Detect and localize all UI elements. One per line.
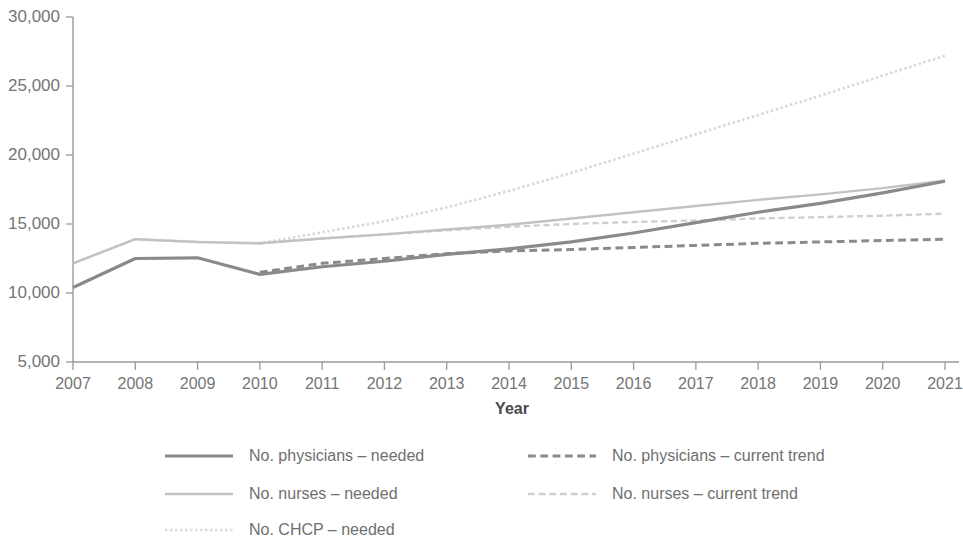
x-tick-label: 2017 [678, 375, 714, 392]
x-tick-label: 2012 [367, 375, 403, 392]
x-tick-label: 2018 [740, 375, 776, 392]
y-tick-label: 20,000 [8, 145, 60, 164]
x-tick-label: 2011 [305, 375, 340, 392]
x-tick-label: 2016 [616, 375, 652, 392]
x-tick-label: 2007 [55, 375, 91, 392]
y-axis: 5,00010,00015,00020,00025,00030,000 [8, 7, 73, 371]
x-tick-label: 2015 [553, 375, 589, 392]
x-axis-title: Year [495, 400, 529, 417]
series-line [73, 181, 945, 287]
x-tick-label: 2009 [180, 375, 216, 392]
legend-item-label: No. nurses – current trend [612, 485, 798, 502]
chart-legend: No. physicians – neededNo. nurses – need… [165, 447, 825, 538]
legend-item-label: No. physicians – current trend [612, 447, 825, 464]
x-tick-label: 2014 [491, 375, 527, 392]
y-tick-label: 30,000 [8, 7, 60, 26]
y-tick-label: 10,000 [8, 283, 60, 302]
data-series-group [73, 56, 945, 288]
x-tick-label: 2019 [803, 375, 839, 392]
x-tick-label: 2021 [927, 375, 963, 392]
legend-item-label: No. physicians – needed [249, 447, 424, 464]
legend-item-label: No. CHCP – needed [249, 521, 395, 538]
y-tick-label: 5,000 [17, 352, 60, 371]
chart-container: 5,00010,00015,00020,00025,00030,000 2007… [0, 0, 963, 542]
x-axis-title-group: Year [495, 400, 529, 417]
y-tick-label: 25,000 [8, 76, 60, 95]
series-line [73, 56, 945, 264]
y-tick-label: 15,000 [8, 214, 60, 233]
line-chart: 5,00010,00015,00020,00025,00030,000 2007… [0, 0, 963, 542]
x-axis: 2007200820092010201120122013201420152016… [55, 362, 963, 392]
x-tick-label: 2013 [429, 375, 465, 392]
legend-item-label: No. nurses – needed [249, 485, 398, 502]
x-tick-label: 2008 [117, 375, 153, 392]
series-line [260, 239, 945, 272]
x-tick-label: 2020 [865, 375, 901, 392]
x-tick-label: 2010 [242, 375, 278, 392]
